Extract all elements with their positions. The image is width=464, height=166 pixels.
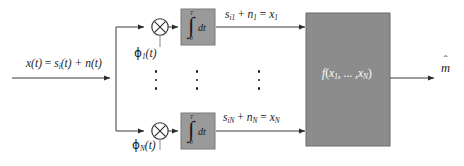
reference-signal-N-label: ϕN(t) [132,139,156,152]
out1-equals: = [257,8,269,20]
block-diagram-svg: ∫ dt ∫ dt [0,0,464,166]
multiplier-N[interactable] [152,123,168,139]
decision-function-label: f(x1, ... ,xN) [322,68,372,80]
integrator-N-upper-limit: T [190,115,193,121]
input-signal-label: x(t) = si(t) + n(t) [26,58,102,70]
outN-plus: + [234,111,246,123]
diagram-canvas: ∫ dt ∫ dt T 0 T 0 x(t) = si(t) + n(t) [0,0,464,166]
ellipsis-dot [155,79,158,82]
ellipsis-dot [258,70,261,73]
branch-N-output-label: siN + nN = xN [223,112,280,124]
ellipsis-dot [196,87,199,90]
phi-1-tail: (t) [146,47,157,59]
phi-glyph-1: ϕ [134,46,142,60]
input-equals: = [45,57,54,69]
ellipsis-dot [196,79,199,82]
multiplier-1[interactable] [152,19,168,35]
integrator-1-lower-limit: 0 [190,36,193,42]
integrator-N-lower-limit: 0 [190,140,193,146]
reference-signal-1-label: ϕ1(t) [134,47,156,60]
splitter-bus [116,27,144,131]
ellipsis-dot [196,70,199,73]
phi-glyph-N: ϕ [132,138,140,152]
ellipsis-output-column [257,70,261,90]
input-x-of-t: x(t) [26,57,45,69]
ellipsis-branch-column [154,70,158,90]
phi-N-tail: (t) [145,139,156,151]
ellipsis-dot [155,87,158,90]
branch-1-output-label: si1 + n1 = x1 [225,9,278,21]
integrator-block-N[interactable]: ∫ dt [181,113,215,149]
input-n-tail: (t) [91,57,102,69]
integrator-N-differential: dt [198,126,206,137]
out1-x-sub: 1 [274,13,278,22]
estimated-message-label: ˆ m [441,62,450,75]
ellipsis-integrator-column [195,70,199,90]
block-comma-dots: , ... , [338,67,358,79]
outN-x-sub: N [275,116,280,125]
ellipsis-dot [258,79,261,82]
block-close-paren: ) [368,67,372,79]
integrator-block-1[interactable]: ∫ dt [181,9,215,45]
out1-plus: + [235,8,247,20]
outN-equals: = [257,111,269,123]
integrator-1-differential: dt [198,22,206,33]
hat-accent: ˆ [441,54,450,65]
ellipsis-dot [155,70,158,73]
ellipsis-dot [258,87,261,90]
integrator-1-upper-limit: T [190,11,193,17]
input-s-tail: (t) + [61,57,85,69]
